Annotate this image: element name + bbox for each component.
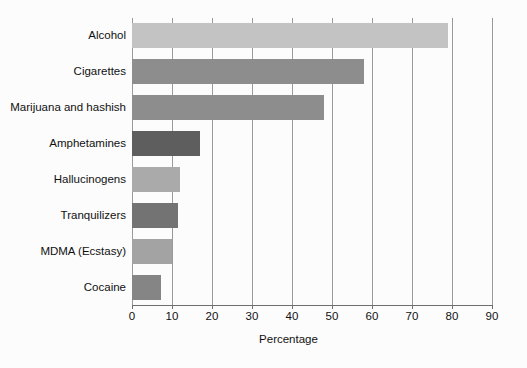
x-tick-label-60: 60 [352, 310, 392, 322]
gridline-80 [452, 18, 453, 305]
x-tick-label-50: 50 [312, 310, 352, 322]
bar-mdma-ecstasy [132, 239, 172, 264]
tick-mark-0 [132, 305, 133, 309]
bar-fill [132, 23, 448, 48]
bar-tranquilizers [132, 203, 178, 228]
category-label-hallucinogens: Hallucinogens [0, 167, 126, 192]
tick-mark-90 [492, 305, 493, 309]
tick-mark-70 [412, 305, 413, 309]
x-tick-label-70: 70 [392, 310, 432, 322]
x-axis-line [132, 305, 493, 306]
bar-fill [132, 203, 178, 228]
category-label-tranquilizers: Tranquilizers [0, 203, 126, 228]
bar-cigarettes [132, 59, 364, 84]
x-tick-label-30: 30 [232, 310, 272, 322]
bar-fill [132, 239, 172, 264]
x-tick-label-40: 40 [272, 310, 312, 322]
gridline-90 [492, 18, 493, 305]
tick-mark-10 [172, 305, 173, 309]
x-tick-label-20: 20 [192, 310, 232, 322]
bar-fill [132, 95, 324, 120]
bar-chart: AlcoholCigarettesMarijuana and hashishAm… [0, 0, 527, 368]
x-tick-label-0: 0 [112, 310, 152, 322]
x-tick-label-10: 10 [152, 310, 192, 322]
bar-cocaine [132, 275, 161, 300]
bar-fill [132, 59, 364, 84]
x-tick-label-90: 90 [472, 310, 512, 322]
category-label-mdma-ecstasy: MDMA (Ecstasy) [0, 239, 126, 264]
x-tick-label-80: 80 [432, 310, 472, 322]
category-label-alcohol: Alcohol [0, 23, 126, 48]
category-label-cocaine: Cocaine [0, 275, 126, 300]
category-label-marijuana-and-hashish: Marijuana and hashish [0, 95, 126, 120]
x-axis-title-text: Percentage [259, 333, 318, 345]
tick-mark-40 [292, 305, 293, 309]
gridline-70 [412, 18, 413, 305]
bar-amphetamines [132, 131, 200, 156]
tick-mark-80 [452, 305, 453, 309]
tick-mark-30 [252, 305, 253, 309]
bar-fill [132, 167, 180, 192]
x-axis-title: Percentage [0, 333, 527, 345]
tick-mark-60 [372, 305, 373, 309]
bar-fill [132, 131, 200, 156]
gridline-60 [372, 18, 373, 305]
category-label-amphetamines: Amphetamines [0, 131, 126, 156]
bar-hallucinogens [132, 167, 180, 192]
tick-mark-20 [212, 305, 213, 309]
category-label-cigarettes: Cigarettes [0, 59, 126, 84]
bar-alcohol [132, 23, 448, 48]
bar-marijuana-and-hashish [132, 95, 324, 120]
tick-mark-50 [332, 305, 333, 309]
bar-fill [132, 275, 161, 300]
